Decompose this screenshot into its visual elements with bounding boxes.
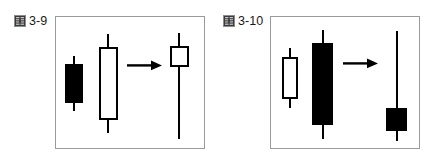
panel-label-3-9: 3-9 [14, 15, 47, 28]
cjk-figure-glyph-icon [14, 15, 26, 27]
candlestick-chart-3-10 [271, 17, 419, 148]
figure-panel-3-9: 3-9 [0, 0, 215, 161]
panel-label-text-3-9: 3-9 [29, 15, 47, 28]
cjk-figure-glyph-icon [223, 15, 235, 27]
candle-1-body [65, 64, 83, 103]
candle-3-body [386, 108, 407, 131]
panel-frame-3-10 [270, 16, 420, 149]
arrow-leads-to [127, 60, 163, 71]
candle-1-body [282, 57, 298, 99]
arrow-right-icon [127, 60, 163, 71]
panel-label-3-10: 3-10 [223, 15, 263, 28]
candle-2-body [99, 47, 118, 120]
arrow-leads-to [343, 58, 379, 69]
arrow-right-icon [343, 58, 379, 69]
candlestick-chart-3-9 [56, 17, 204, 148]
candle-2-body [312, 43, 333, 125]
panel-label-text-3-10: 3-10 [238, 15, 263, 28]
panel-frame-3-9 [55, 16, 205, 149]
candle-3-body [170, 46, 189, 67]
figure-container: 3-9 [0, 0, 429, 161]
figure-panel-3-10: 3-10 [215, 0, 429, 161]
